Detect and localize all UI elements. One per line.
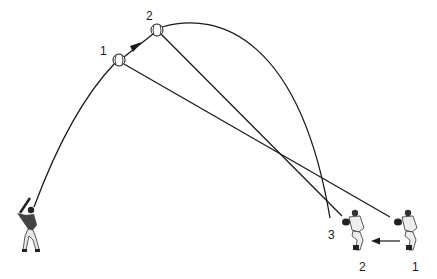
ball-label-2: 2 bbox=[146, 9, 153, 23]
batter-figure bbox=[17, 198, 40, 252]
fielder-label-1: 1 bbox=[412, 260, 419, 274]
movement-arrow-head-icon bbox=[371, 238, 380, 245]
diagram-canvas: 1 2 3 2 1 bbox=[0, 0, 437, 279]
landing-label-3: 3 bbox=[328, 228, 335, 242]
baseball-icon-2 bbox=[151, 24, 163, 36]
baseball-icon-1 bbox=[113, 54, 125, 66]
fielder-label-2: 2 bbox=[359, 260, 366, 274]
sight-line-1 bbox=[124, 64, 390, 217]
fielder-figure-2 bbox=[342, 210, 364, 250]
trajectory-arc bbox=[162, 23, 330, 218]
fielder-figure-1 bbox=[394, 210, 417, 250]
ball-label-1: 1 bbox=[100, 44, 107, 58]
trajectory-rise bbox=[34, 63, 115, 207]
sight-line-2 bbox=[161, 34, 342, 216]
